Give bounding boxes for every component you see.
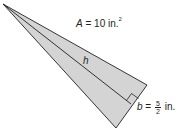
triangle-diagram: A = 10 in.2 h b = 52 in.: [0, 0, 192, 136]
height-label: h: [83, 55, 89, 66]
fraction-numerator: 5: [155, 100, 161, 108]
fraction-denominator: 2: [155, 108, 161, 115]
triangle: [3, 4, 147, 128]
area-label: A = 10 in.2: [76, 18, 122, 29]
base-unit: in.: [162, 101, 175, 112]
area-value: = 10 in.: [83, 18, 119, 29]
base-label: b = 52 in.: [137, 100, 175, 115]
base-equals: =: [143, 101, 154, 112]
base-fraction: 52: [155, 100, 161, 115]
area-variable: A: [76, 18, 83, 29]
area-exponent: 2: [119, 16, 122, 22]
